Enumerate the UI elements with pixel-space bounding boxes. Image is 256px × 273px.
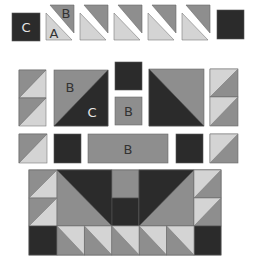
assembled-block bbox=[29, 170, 221, 255]
label-c: C bbox=[21, 20, 30, 35]
strip-hst-left bbox=[19, 134, 47, 163]
split-hst-3 bbox=[114, 5, 142, 40]
split-hst-5 bbox=[182, 5, 210, 40]
strip-b-rectangle: B bbox=[88, 134, 168, 163]
label-b: B bbox=[62, 6, 71, 21]
c-square: C bbox=[12, 13, 40, 41]
split-hst-2 bbox=[80, 5, 108, 40]
right-hst-stack bbox=[210, 69, 238, 126]
quilt-diagram: .dk { fill:#2b2b2b; stroke:#555; stroke-… bbox=[0, 0, 256, 273]
label-strip-b: B bbox=[124, 142, 133, 157]
small-b-square: B bbox=[115, 97, 142, 125]
big-hst-bc: B C bbox=[54, 70, 108, 126]
dark-square-top-right bbox=[217, 10, 244, 39]
big-hst-dark-medium bbox=[149, 69, 204, 126]
label-small-b: B bbox=[124, 104, 133, 119]
strip-row: B bbox=[19, 134, 238, 163]
left-hst-stack bbox=[19, 70, 46, 126]
label-big-b: B bbox=[66, 80, 75, 95]
middle-row: B C B bbox=[19, 62, 238, 126]
strip-dark-right bbox=[176, 134, 203, 163]
strip-hst-right bbox=[210, 134, 238, 163]
strip-dark-left bbox=[54, 134, 81, 163]
split-hst-ab: B A bbox=[46, 5, 74, 41]
bottom-hst-row bbox=[57, 226, 194, 255]
label-big-c: C bbox=[87, 105, 96, 120]
small-dark-square bbox=[115, 62, 142, 90]
label-a: A bbox=[50, 26, 59, 41]
top-row: C B A bbox=[12, 5, 244, 41]
split-hst-4 bbox=[148, 5, 176, 40]
